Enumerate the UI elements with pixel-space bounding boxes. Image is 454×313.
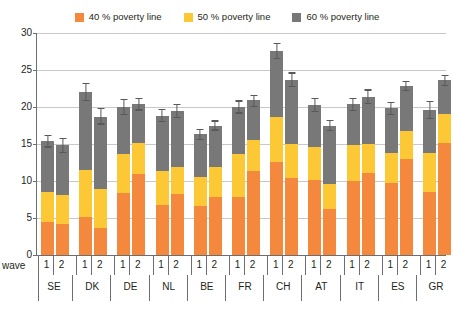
wave-number-be-1: 1 <box>193 259 206 270</box>
error-bar-cap-lower <box>97 123 104 124</box>
country-separator-tick <box>225 275 226 301</box>
error-bar <box>238 101 239 113</box>
country-separator-tick <box>38 275 39 301</box>
wave-number-de-2: 2 <box>131 259 144 270</box>
error-bar <box>62 139 63 152</box>
error-bar-cap-lower <box>212 129 219 130</box>
country-label-nl: NL <box>155 281 183 292</box>
error-bar-cap-lower <box>311 111 318 112</box>
wave-separator-tick <box>114 255 115 275</box>
legend-label-p50: 50 % poverty line <box>198 12 271 22</box>
bar-segment-p40 <box>423 192 436 255</box>
error-bar-cap-upper <box>59 138 66 139</box>
bar-segment-p40 <box>270 162 283 255</box>
legend-item-p50: 50 % poverty line <box>184 12 271 22</box>
error-bar <box>177 105 178 118</box>
legend-swatch-p60-icon <box>292 13 301 22</box>
error-bar-cap-upper <box>159 109 166 110</box>
error-bar-cap-upper <box>273 43 280 44</box>
y-tick-label-25: 25 <box>21 65 32 75</box>
error-bar-cap-lower <box>59 152 66 153</box>
bar-segment-p40 <box>308 180 321 255</box>
error-bar-cap-lower <box>441 85 448 86</box>
bar-segment-p40 <box>323 209 336 255</box>
error-bar-cap-lower <box>350 110 357 111</box>
country-label-se: SE <box>40 281 68 292</box>
bar-segment-p40 <box>285 178 298 255</box>
wave-separator-tick <box>76 255 77 275</box>
error-bar-cap-lower <box>174 117 181 118</box>
error-bar-cap-upper <box>403 81 410 82</box>
error-bar <box>47 135 48 147</box>
error-bar-cap-upper <box>120 99 127 100</box>
wave-separator-tick <box>397 255 398 275</box>
y-tick-label-20: 20 <box>21 102 32 112</box>
error-bar-cap-lower <box>403 90 410 91</box>
wave-number-gr-1: 1 <box>422 259 435 270</box>
country-separator-tick <box>301 275 302 301</box>
wave-number-it-2: 2 <box>361 259 374 270</box>
bar-at-wave1 <box>308 33 321 255</box>
bar-it-wave1 <box>347 33 360 255</box>
wave-number-nl-2: 2 <box>170 259 183 270</box>
bar-it-wave2 <box>362 33 375 255</box>
wave-separator-tick <box>282 255 283 275</box>
wave-separator-tick <box>359 255 360 275</box>
y-tick-mark-10 <box>33 181 37 182</box>
error-bar-cap-upper <box>174 104 181 105</box>
wave-number-at-2: 2 <box>322 259 335 270</box>
bar-fr-wave1 <box>232 33 245 255</box>
bar-segment-p40 <box>56 224 69 255</box>
wave-separator-tick <box>206 255 207 275</box>
country-label-fr: FR <box>231 281 259 292</box>
error-bar <box>314 99 315 112</box>
error-bar-cap-upper <box>326 120 333 121</box>
bar-segment-p40 <box>79 217 92 255</box>
bar-segment-p40 <box>117 193 130 255</box>
bar-be-wave2 <box>209 33 222 255</box>
error-bar-cap-upper <box>365 89 372 90</box>
wave-separator-tick <box>191 255 192 275</box>
bar-es-wave2 <box>400 33 413 255</box>
bar-se-wave2 <box>56 33 69 255</box>
wave-separator-tick <box>382 255 383 275</box>
legend-item-p60: 60 % poverty line <box>292 12 379 22</box>
error-bar <box>100 108 101 124</box>
error-bar-cap-upper <box>135 98 142 99</box>
bar-segment-p40 <box>347 181 360 255</box>
wave-number-es-2: 2 <box>399 259 412 270</box>
y-tick-mark-25 <box>33 70 37 71</box>
bar-segment-p40 <box>362 173 375 255</box>
error-bar-cap-lower <box>388 114 395 115</box>
country-label-es: ES <box>384 281 412 292</box>
y-tick-label-15: 15 <box>21 139 32 149</box>
error-bar-cap-upper <box>426 101 433 102</box>
bar-gr-wave1 <box>423 33 436 255</box>
wave-separator-tick <box>267 255 268 275</box>
bar-segment-p40 <box>171 194 184 255</box>
country-separator-tick <box>187 275 188 301</box>
poverty-line-stacked-bar-chart: 40 % poverty line50 % poverty line60 % p… <box>0 0 454 313</box>
country-label-de: DE <box>116 281 144 292</box>
bar-segment-p40 <box>156 205 169 255</box>
bar-de-wave2 <box>132 33 145 255</box>
y-tick-mark-20 <box>33 107 37 108</box>
wave-separator-tick <box>244 255 245 275</box>
wave-number-dk-1: 1 <box>78 259 91 270</box>
wave-separator-tick <box>153 255 154 275</box>
wave-number-it-1: 1 <box>346 259 359 270</box>
bar-segment-p40 <box>385 183 398 255</box>
y-tick-label-30: 30 <box>21 28 32 38</box>
error-bar-cap-upper <box>350 98 357 99</box>
error-bar <box>138 98 139 110</box>
country-separator-tick <box>340 275 341 301</box>
error-bar-cap-upper <box>388 102 395 103</box>
wave-axis-label: wave <box>2 260 25 271</box>
bar-ch-wave2 <box>285 33 298 255</box>
wave-number-fr-1: 1 <box>231 259 244 270</box>
wave-number-be-2: 2 <box>208 259 221 270</box>
country-label-it: IT <box>346 281 374 292</box>
error-bar-cap-upper <box>235 100 242 101</box>
bar-dk-wave2 <box>94 33 107 255</box>
bar-segment-p40 <box>132 174 145 255</box>
